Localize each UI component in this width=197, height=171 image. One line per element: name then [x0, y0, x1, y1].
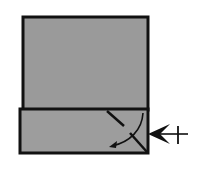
folded-strip: [20, 109, 148, 153]
upper-panel: [23, 17, 148, 110]
origami-diagram: [0, 0, 197, 171]
